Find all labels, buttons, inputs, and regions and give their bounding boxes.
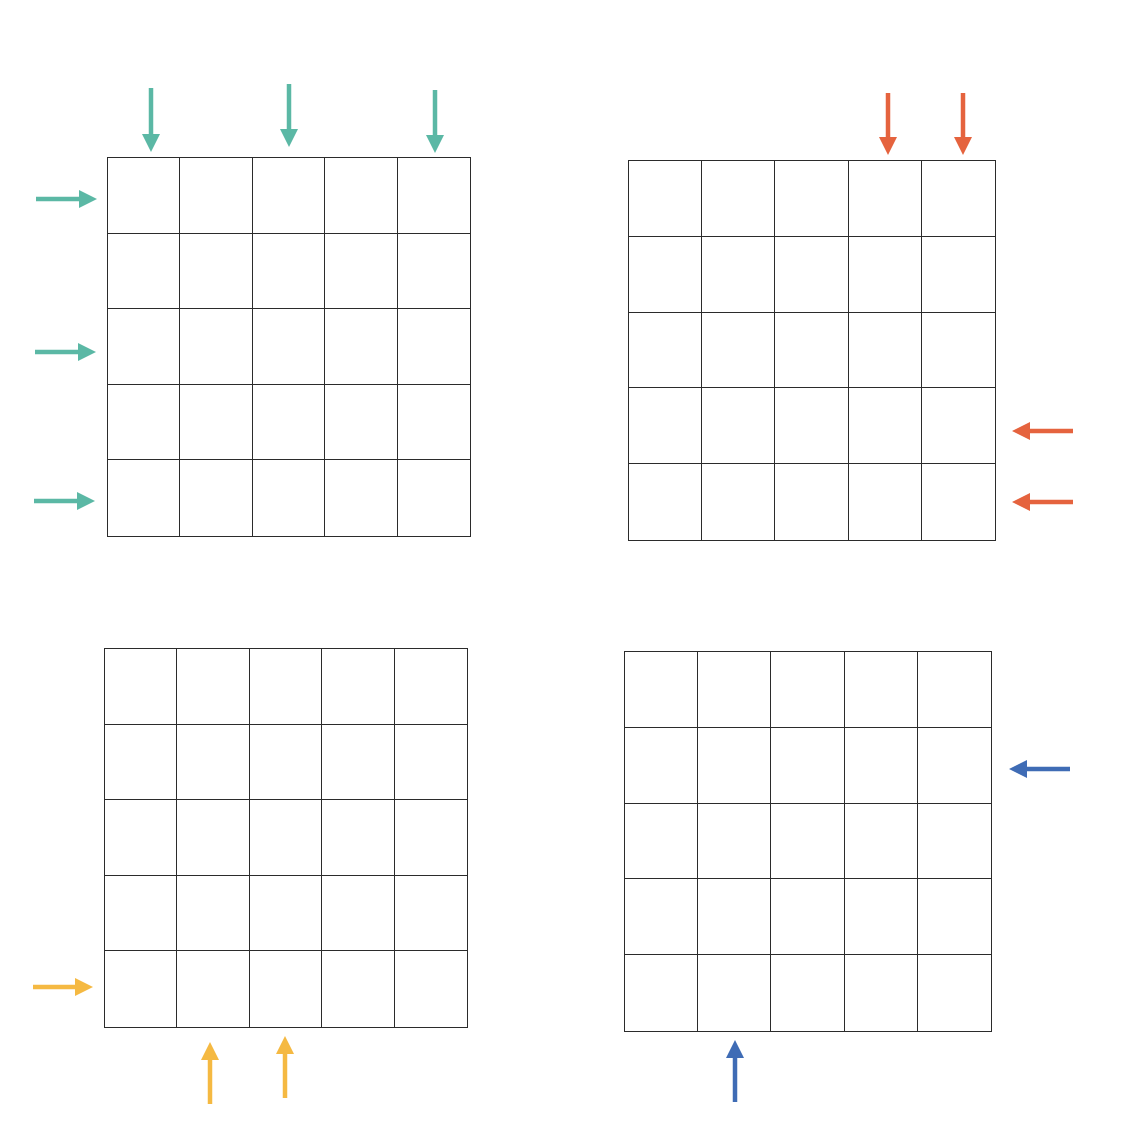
arrow-left-icon <box>1012 493 1073 511</box>
grid-cell <box>698 804 771 880</box>
grid-cell <box>325 460 397 536</box>
grid-cell <box>395 951 467 1027</box>
grid-cell <box>105 876 177 952</box>
grid-cell <box>105 649 177 725</box>
grid-cell <box>253 234 325 310</box>
arrow-right-icon <box>33 978 93 996</box>
grid-cell <box>922 161 995 237</box>
arrow-right-icon <box>36 190 97 208</box>
grid-cell <box>702 464 775 540</box>
arrow-up-icon <box>276 1036 294 1098</box>
grid-bottom-right <box>624 651 992 1032</box>
grid-cell <box>108 234 180 310</box>
grid-cell <box>625 955 698 1031</box>
grid-cell <box>849 161 922 237</box>
grid-cell <box>180 385 252 461</box>
grid-cell <box>177 951 249 1027</box>
grid-cell <box>918 879 991 955</box>
grid-cell <box>108 385 180 461</box>
grid-cell <box>771 804 844 880</box>
grid-cell <box>775 464 848 540</box>
grid-top-right <box>628 160 996 541</box>
grid-cell <box>771 879 844 955</box>
grid-cell <box>180 158 252 234</box>
grid-cell <box>325 234 397 310</box>
grid-cell <box>625 879 698 955</box>
grid-cell <box>918 955 991 1031</box>
grid-cell <box>922 388 995 464</box>
grid-cell <box>395 876 467 952</box>
grid-cell <box>250 725 322 801</box>
grid-cell <box>849 388 922 464</box>
grid-cell <box>845 652 918 728</box>
grid-cell <box>105 800 177 876</box>
arrow-down-icon <box>426 90 444 153</box>
arrow-right-icon <box>34 492 95 510</box>
grid-cell <box>849 237 922 313</box>
grid-cell <box>625 652 698 728</box>
grid-cell <box>702 313 775 389</box>
arrow-down-icon <box>954 93 972 155</box>
arrow-up-icon <box>726 1040 744 1102</box>
grid-cell <box>398 158 470 234</box>
grid-cell <box>395 800 467 876</box>
grid-cell <box>322 725 394 801</box>
grid-cell <box>177 725 249 801</box>
arrow-right-icon <box>35 343 96 361</box>
grid-cell <box>108 158 180 234</box>
grid-cell <box>108 460 180 536</box>
grid-cell <box>105 725 177 801</box>
grid-cell <box>177 876 249 952</box>
arrow-down-icon <box>142 88 160 152</box>
grid-cell <box>775 161 848 237</box>
grid-cell <box>702 161 775 237</box>
grid-cell <box>180 460 252 536</box>
grid-cell <box>398 385 470 461</box>
arrow-left-icon <box>1009 760 1070 778</box>
grid-cell <box>325 158 397 234</box>
arrow-left-icon <box>1012 422 1073 440</box>
grid-cell <box>325 309 397 385</box>
grid-cell <box>325 385 397 461</box>
arrow-down-icon <box>879 93 897 155</box>
grid-cell <box>698 652 771 728</box>
grid-cell <box>253 385 325 461</box>
grid-cell <box>771 955 844 1031</box>
grid-cell <box>629 388 702 464</box>
grid-cell <box>395 725 467 801</box>
grid-cell <box>398 460 470 536</box>
grid-cell <box>845 804 918 880</box>
grid-cell <box>771 728 844 804</box>
grid-cell <box>918 652 991 728</box>
grid-cell <box>322 951 394 1027</box>
grid-cell <box>849 313 922 389</box>
grid-cell <box>108 309 180 385</box>
grid-cell <box>775 313 848 389</box>
grid-cell <box>250 876 322 952</box>
grid-cell <box>322 800 394 876</box>
arrow-up-icon <box>201 1042 219 1104</box>
grid-cell <box>177 800 249 876</box>
grid-cell <box>698 955 771 1031</box>
grid-cell <box>625 804 698 880</box>
grid-cell <box>322 649 394 725</box>
grid-cell <box>398 234 470 310</box>
grid-cell <box>702 388 775 464</box>
grid-cell <box>253 309 325 385</box>
grid-cell <box>775 237 848 313</box>
grid-cell <box>918 728 991 804</box>
grid-cell <box>322 876 394 952</box>
grid-cell <box>918 804 991 880</box>
grid-cell <box>771 652 844 728</box>
grid-cell <box>629 313 702 389</box>
grid-cell <box>180 309 252 385</box>
grid-cell <box>845 879 918 955</box>
grid-cell <box>922 237 995 313</box>
grid-cell <box>629 464 702 540</box>
grid-cell <box>845 955 918 1031</box>
grid-cell <box>629 237 702 313</box>
grid-cell <box>698 728 771 804</box>
grid-top-left <box>107 157 471 537</box>
grid-cell <box>698 879 771 955</box>
grid-cell <box>775 388 848 464</box>
